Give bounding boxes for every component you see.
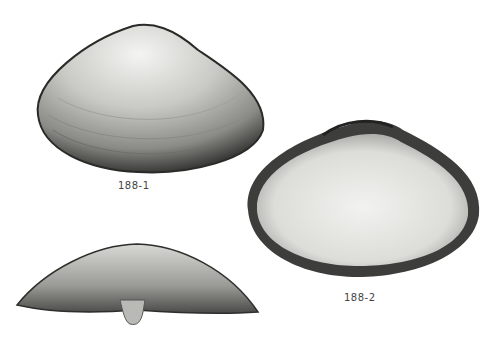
shell-interior-image <box>243 115 483 280</box>
shell-exterior-label: 188-1 <box>118 180 150 191</box>
shell-exterior-image <box>28 20 268 180</box>
shell-dorsal-image <box>15 240 260 330</box>
shell-interior-label: 188-2 <box>344 292 376 303</box>
